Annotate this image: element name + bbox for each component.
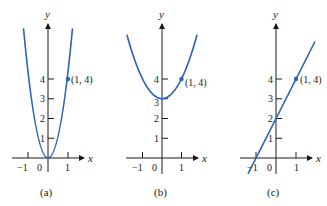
highlighted-point <box>66 77 70 81</box>
line-curve <box>248 42 315 174</box>
x-tick-label: 0 <box>152 162 157 173</box>
y-tick-label: 1 <box>40 133 45 144</box>
point-label: (1, 4) <box>300 74 322 86</box>
y-axis-label: y <box>158 8 164 20</box>
highlighted-point <box>179 77 183 81</box>
y-tick-label: 3 <box>268 93 273 104</box>
y-tick-label: 4 <box>154 74 159 85</box>
highlighted-point <box>294 77 298 81</box>
y-tick-label: 2 <box>154 113 159 124</box>
y-tick-label: 4 <box>268 74 273 85</box>
x-axis-label: x <box>201 152 207 164</box>
caption: (b) <box>154 186 167 199</box>
x-tick-label: −1 <box>132 162 143 173</box>
x-tick-label: 1 <box>179 162 184 173</box>
figure-three-graphs: y x −1 0 1 1 2 3 4 (1, 4) (a) y x −1 0 1… <box>0 0 327 206</box>
x-tick-label: 0 <box>267 162 272 173</box>
graph-b: y x −1 0 1 1 2 3 4 (1, 4) (b) <box>126 8 207 199</box>
y-tick-label: 4 <box>40 74 45 85</box>
x-tick-label: 1 <box>294 162 299 173</box>
x-tick-label: 0 <box>37 162 42 173</box>
x-axis-label: x <box>87 152 93 164</box>
x-axis-label: x <box>315 152 321 164</box>
point-label: (1, 4) <box>185 77 207 89</box>
y-tick-label: 1 <box>268 133 273 144</box>
caption: (c) <box>267 186 280 199</box>
x-tick-label: −1 <box>247 162 258 173</box>
point-label: (1, 4) <box>71 74 93 86</box>
x-tick-label: 1 <box>65 162 70 173</box>
x-tick-label: −1 <box>17 162 28 173</box>
caption: (a) <box>40 186 53 199</box>
y-tick-label: 1 <box>154 133 159 144</box>
graph-a: y x −1 0 1 1 2 3 4 (1, 4) (a) <box>12 8 93 199</box>
y-tick-label: 3 <box>154 97 159 108</box>
y-axis-label: y <box>44 8 50 20</box>
y-axis-label: y <box>272 8 278 20</box>
y-tick-label: 2 <box>268 113 273 124</box>
graph-c: y x −1 0 1 1 2 3 4 (1, 4) (c) <box>240 8 322 199</box>
y-tick-label: 3 <box>40 93 45 104</box>
y-tick-label: 2 <box>40 113 45 124</box>
